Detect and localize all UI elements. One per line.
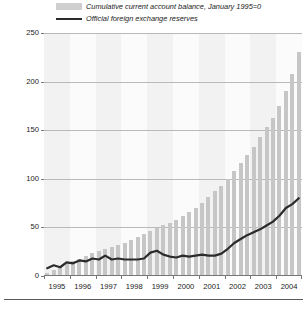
x-tick-mark [301,276,302,279]
y-tick-label: 100 [26,175,39,183]
y-tick-label: 250 [26,29,39,37]
x-tick-mark [250,276,251,279]
plot-area: 050100150200250 199519961997199819992000… [44,33,302,276]
x-tick-mark [147,276,148,279]
bar-swatch-icon [56,3,82,10]
x-tick-label: 2002 [229,282,246,291]
x-tick-mark [70,276,71,279]
legend-item-cumulative-balance: Cumulative current account balance, Janu… [56,1,306,12]
legend-item-label: Cumulative current account balance, Janu… [86,2,261,11]
y-tick-label: 200 [26,78,39,86]
line-swatch-icon [56,18,82,20]
x-tick-mark [276,276,277,279]
chart-legend: Cumulative current account balance, Janu… [56,1,306,25]
x-tick-label: 1998 [126,282,143,291]
x-tick-label: 1997 [100,282,117,291]
x-tick-mark [96,276,97,279]
x-tick-mark [199,276,200,279]
footer-rule [4,299,303,300]
x-tick-label: 1999 [152,282,169,291]
x-tick-label: 2000 [177,282,194,291]
x-tick-mark [225,276,226,279]
legend-item-label: Official foreign exchange reserves [86,14,198,23]
chart-figure: Cumulative current account balance, Janu… [0,0,307,309]
line-series [44,33,302,276]
y-tick-label: 0 [35,272,39,280]
x-tick-mark [173,276,174,279]
x-tick-mark [44,276,45,279]
x-tick-label: 2003 [255,282,272,291]
y-tick-label: 150 [26,126,39,134]
legend-item-fx-reserves: Official foreign exchange reserves [56,13,306,24]
fx-reserves-line [47,198,299,268]
x-tick-label: 1996 [74,282,91,291]
x-tick-mark [121,276,122,279]
x-tick-label: 2004 [281,282,298,291]
x-tick-label: 1995 [48,282,65,291]
x-tick-label: 2001 [203,282,220,291]
y-tick-label: 50 [31,223,39,231]
